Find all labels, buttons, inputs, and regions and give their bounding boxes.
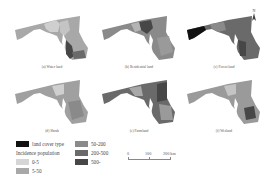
- legend-swatch: [75, 150, 88, 156]
- scale-tick-label: 0: [127, 151, 129, 156]
- svg-text:N: N: [253, 8, 256, 13]
- legend-swatch: [16, 159, 29, 165]
- panel-caption: (f) Wetland: [180, 129, 268, 133]
- legend-item-0-5: 0-5: [16, 159, 39, 165]
- map-panel-e: (e) Farmland: [95, 76, 183, 138]
- legend-title-incidence: Incidence population: [16, 150, 60, 156]
- north-arrow-icon: N: [250, 8, 258, 22]
- panel-caption: (e) Farmland: [95, 129, 183, 133]
- legend-item-50-200: 50-200: [75, 141, 106, 147]
- scale-tick-label: 100: [145, 151, 151, 156]
- maryland-map-farmland: [95, 76, 183, 128]
- legend-swatch: [75, 141, 88, 147]
- legend-label: 200-500: [91, 150, 108, 156]
- map-panel-a: (a) Water land: [8, 12, 96, 74]
- panel-caption: (d) Shrub: [8, 129, 96, 133]
- legend-item-500-plus: 500-: [75, 159, 101, 165]
- scale-tick: [170, 157, 171, 160]
- legend-label: Incidence population: [16, 150, 60, 156]
- panel-caption: (c) Forest land: [180, 65, 268, 69]
- scale-tick: [149, 157, 150, 160]
- legend-swatch: [75, 159, 88, 165]
- legend-label: 5-50: [32, 168, 42, 174]
- map-panel-d: (d) Shrub: [8, 76, 96, 138]
- maryland-map-water-land: [8, 12, 96, 64]
- maryland-map-shrub: [8, 76, 96, 128]
- legend-label: 500-: [91, 159, 101, 165]
- scale-tick: [128, 157, 129, 160]
- map-panel-f: (f) Wetland: [180, 76, 268, 138]
- legend-label: 0-5: [32, 159, 39, 165]
- legend-item-200-500: 200-500: [75, 150, 108, 156]
- maryland-map-residential-land: [95, 12, 183, 64]
- scale-tick-label: 200 km: [163, 151, 176, 156]
- legend-label: 50-200: [91, 141, 106, 147]
- legend-label: land cover type: [32, 141, 64, 147]
- map-panel-b: (b) Residential land: [95, 12, 183, 74]
- legend-item-5-50: 5-50: [16, 168, 42, 174]
- legend-swatch: [16, 168, 29, 174]
- scale-bar: 0 100 200 km: [125, 151, 185, 167]
- legend-item-land-cover: land cover type: [16, 141, 64, 147]
- legend-swatch: [16, 141, 29, 147]
- maryland-map-wetland: [180, 76, 268, 128]
- panel-caption: (b) Residential land: [95, 65, 183, 69]
- panel-caption: (a) Water land: [8, 65, 96, 69]
